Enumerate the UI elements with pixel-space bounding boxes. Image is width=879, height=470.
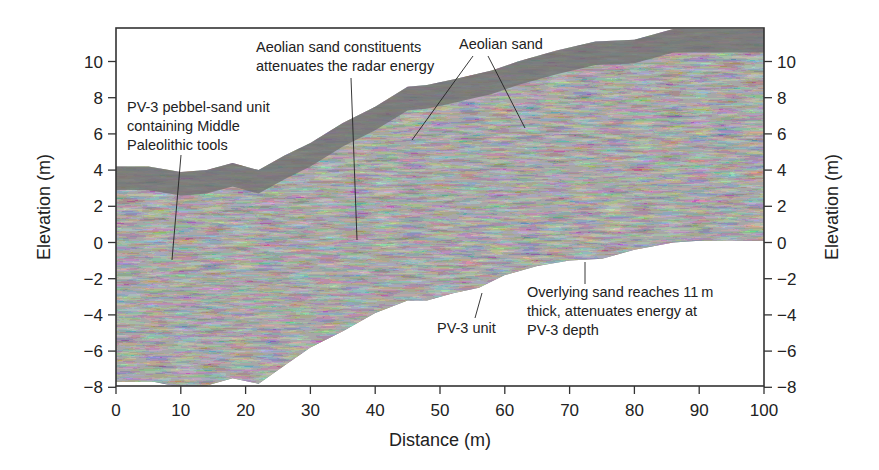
annotation-text: Paleolithic tools	[127, 137, 228, 153]
x-tick-label: 90	[690, 401, 709, 420]
annotation-text: attenuates the radar energy	[256, 58, 435, 74]
annotation-text: Overlying sand reaches 11 m	[527, 284, 713, 300]
x-tick-label: 30	[301, 401, 320, 420]
y-tick-label-right: −6	[777, 342, 796, 361]
y-tick-label-right: 4	[777, 161, 786, 180]
x-tick-label: 60	[495, 401, 514, 420]
x-tick-label: 0	[111, 401, 120, 420]
annotation-pv3-unit: PV-3 unit	[437, 293, 496, 336]
annotation-text: thick, attenuates energy at	[527, 303, 697, 319]
annotation-text: containing Middle	[127, 118, 240, 134]
x-tick-label: 50	[431, 401, 450, 420]
y-tick-label-left: 6	[94, 125, 103, 144]
x-tick-label: 10	[171, 401, 190, 420]
annotation-text: Aeolian sand	[459, 36, 543, 52]
y-tick-label-left: −6	[84, 342, 103, 361]
x-tick-label: 70	[560, 401, 579, 420]
y-axis-left: 1086420−2−4−6−8	[84, 53, 116, 398]
y-tick-label-right: 10	[777, 53, 796, 72]
y-tick-label-right: 0	[777, 234, 786, 253]
x-axis-title: Distance (m)	[389, 430, 491, 450]
gpr-profile-chart: 1086420−2−4−6−8 1086420−2−4−6−8 01020304…	[0, 0, 879, 470]
y-tick-label-right: −4	[777, 306, 796, 325]
annotation-text: Aeolian sand constituents	[256, 39, 421, 55]
x-tick-label: 80	[625, 401, 644, 420]
y-tick-label-right: −2	[777, 270, 796, 289]
annotation-text: PV-3 unit	[437, 320, 496, 336]
y-tick-label-right: −8	[777, 378, 796, 397]
y-tick-label-right: 2	[777, 197, 786, 216]
x-tick-label: 100	[750, 401, 778, 420]
x-tick-label: 20	[236, 401, 255, 420]
annotation-overlying-sand: Overlying sand reaches 11 m thick, atten…	[527, 262, 713, 338]
y-tick-label-left: −2	[84, 270, 103, 289]
y-tick-label-left: 8	[94, 89, 103, 108]
x-axis: 0102030405060708090100	[111, 386, 778, 420]
annotation-text: PV-3 depth	[527, 322, 599, 338]
y-tick-label-left: −4	[84, 306, 103, 325]
x-tick-label: 40	[366, 401, 385, 420]
y-axis-left-title: Elevation (m)	[34, 154, 54, 260]
y-axis-right: 1086420−2−4−6−8	[764, 53, 796, 398]
y-tick-label-left: −8	[84, 378, 103, 397]
y-tick-label-right: 8	[777, 89, 786, 108]
y-tick-label-left: 0	[94, 234, 103, 253]
annotation-pointer	[475, 293, 482, 318]
y-tick-label-left: 10	[84, 53, 103, 72]
y-tick-label-right: 6	[777, 125, 786, 144]
y-tick-label-left: 4	[94, 161, 103, 180]
y-tick-label-left: 2	[94, 197, 103, 216]
y-axis-right-title: Elevation (m)	[822, 154, 842, 260]
annotation-text: PV-3 pebbel-sand unit	[127, 99, 270, 115]
